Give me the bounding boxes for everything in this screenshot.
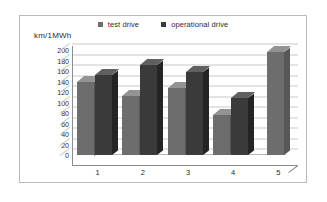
bar	[267, 52, 284, 155]
legend-item-test-drive: test drive	[98, 20, 139, 29]
legend-item-operational-drive: operational drive	[161, 20, 228, 29]
x-axis-tick-label: 1	[96, 168, 100, 177]
bar-side-face	[203, 68, 209, 155]
chart-legend: test drive operational drive	[20, 20, 306, 29]
bar-side-face	[248, 94, 254, 155]
bar-front-face	[213, 115, 230, 155]
y-axis-title: km/1MWh	[34, 31, 71, 40]
bar	[168, 88, 185, 155]
bar-front-face	[186, 72, 203, 155]
bar-front-face	[140, 65, 157, 155]
gridline	[72, 44, 298, 45]
bar	[122, 96, 139, 155]
legend-swatch-operational-drive	[161, 22, 166, 27]
bar-front-face	[231, 98, 248, 155]
legend-swatch-test-drive	[98, 22, 103, 27]
bar	[186, 72, 203, 155]
x-axis-tick-label: 3	[186, 168, 190, 177]
plot-area: 200180160140120100806040200 12345	[46, 46, 298, 166]
bar	[95, 75, 112, 155]
bar-front-face	[122, 96, 139, 155]
legend-label-operational-drive: operational drive	[171, 20, 228, 29]
bar-side-face	[157, 60, 163, 155]
x-axis-tick-label: 5	[276, 168, 280, 177]
bar	[213, 115, 230, 155]
legend-label-test-drive: test drive	[108, 20, 139, 29]
x-axis-tick-label: 4	[231, 168, 235, 177]
bar-front-face	[267, 52, 284, 155]
bar	[77, 82, 94, 156]
bar-group	[72, 46, 298, 166]
bar-front-face	[95, 75, 112, 155]
bar-front-face	[77, 82, 94, 156]
x-axis-tick-label: 2	[141, 168, 145, 177]
bar-side-face	[284, 48, 290, 155]
x-axis-labels: 12345	[72, 168, 298, 182]
chart-frame: test drive operational drive km/1MWh 200…	[19, 15, 307, 183]
bar-side-face	[112, 71, 118, 155]
y-axis-tick-label: 0	[65, 152, 69, 159]
bar	[231, 98, 248, 155]
bar	[140, 65, 157, 155]
bar-front-face	[168, 88, 185, 155]
